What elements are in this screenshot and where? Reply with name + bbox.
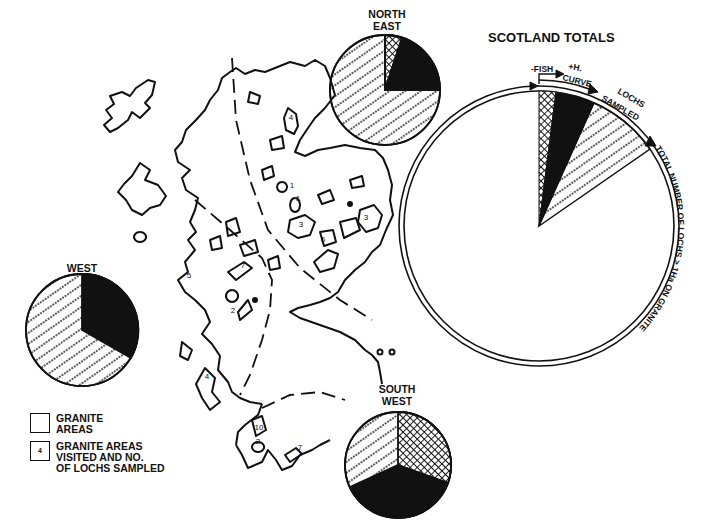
west-title: WEST — [62, 262, 102, 274]
scotland-loch-diagram: 4 1 1 3 3 6 5 7 2 4 10 2 7 — [0, 0, 709, 531]
region-label: NORTH — [362, 8, 412, 20]
south-west-title: SOUTH WEST — [372, 383, 422, 407]
map-number-labels: 4 1 1 3 3 6 5 7 2 4 10 2 7 — [187, 113, 369, 452]
map-label: 7 — [298, 443, 303, 452]
north-east-title: NORTH EAST — [362, 8, 412, 32]
granite-area-swatch — [30, 413, 50, 433]
pie-north-east — [330, 35, 440, 145]
map-label: 7 — [241, 261, 246, 270]
map-label: 4 — [289, 113, 294, 122]
map-label: 2 — [231, 306, 236, 315]
outer-hebrides-island — [104, 80, 155, 132]
map-label: 1 — [296, 194, 301, 203]
pie-south-west — [345, 412, 451, 518]
map-label: 6 — [321, 235, 326, 244]
map-label: 5 — [187, 271, 192, 280]
map-label: 2 — [256, 437, 261, 446]
skye-island — [118, 163, 166, 215]
h-curve-label: CURVE — [562, 72, 593, 89]
h-curve-label: +H. — [568, 61, 583, 73]
map-label: 4 — [205, 372, 210, 381]
map-label: 10 — [255, 423, 264, 432]
south-coastline — [236, 404, 330, 470]
map-label: 3 — [299, 220, 304, 229]
legend-text: AREAS — [56, 424, 103, 435]
pie-west — [26, 274, 139, 386]
region-label: WEST — [372, 395, 422, 407]
visited-area-swatch: 4 — [30, 441, 50, 461]
legend-text: OF LOCHS SAMPLED — [56, 463, 165, 474]
region-label: SOUTH — [372, 383, 422, 395]
scotland-totals-title: SCOTLAND TOTALS — [488, 32, 615, 44]
map-label: 3 — [364, 213, 369, 222]
map-label: 1 — [290, 181, 295, 190]
fish-label: -FISH — [531, 64, 553, 74]
region-label: EAST — [362, 20, 412, 32]
